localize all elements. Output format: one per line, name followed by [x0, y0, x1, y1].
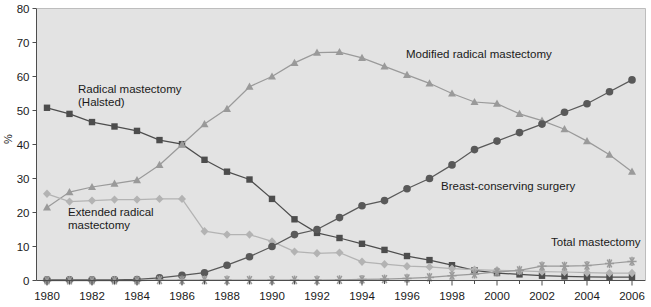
x-tick-label: 1984	[124, 290, 150, 302]
data-point-square	[44, 105, 50, 111]
y-axis-label: %	[2, 134, 14, 144]
series-annotation: mastectomy	[68, 219, 130, 231]
data-point-square	[291, 216, 297, 222]
data-point-circle	[246, 253, 254, 261]
data-point-square	[246, 176, 252, 182]
data-point-square	[111, 123, 117, 129]
data-point-square	[156, 137, 162, 143]
series-annotation: Breast-conserving surgery	[441, 180, 575, 192]
y-tick-label: 60	[17, 71, 30, 83]
x-tick-label: 1996	[394, 290, 420, 302]
series-annotation: Total mastectomy	[551, 236, 641, 248]
x-tick-label: 1994	[349, 290, 375, 302]
data-point-circle	[538, 120, 546, 128]
data-point-circle	[426, 175, 434, 183]
y-tick-label: 80	[17, 3, 30, 15]
series-annotation: (Halsted)	[78, 96, 125, 108]
data-point-circle	[201, 269, 209, 277]
x-tick-label: 1988	[214, 290, 240, 302]
data-point-circle	[516, 129, 524, 137]
data-point-square	[89, 119, 95, 125]
y-tick-label: 0	[23, 275, 29, 287]
data-point-circle	[223, 261, 231, 269]
x-tick-label: 2004	[574, 290, 600, 302]
data-point-circle	[268, 243, 276, 251]
data-point-square	[359, 241, 365, 247]
data-point-square	[224, 169, 230, 175]
y-tick-label: 70	[17, 37, 30, 49]
x-tick-label: 1990	[259, 290, 285, 302]
data-point-square	[381, 247, 387, 253]
y-tick-label: 20	[17, 207, 30, 219]
series-annotation: Modified radical mastectomy	[406, 48, 552, 60]
x-tick-label: 2000	[484, 290, 510, 302]
data-point-circle	[448, 161, 456, 169]
line-chart: 01020304050607080 1980198219841986198819…	[0, 0, 651, 307]
series-annotation: Radical mastectomy	[78, 83, 182, 95]
data-point-circle	[471, 146, 479, 154]
x-tick-label: 2006	[619, 290, 645, 302]
data-point-square	[201, 157, 207, 163]
data-point-square	[336, 235, 342, 241]
x-tick-label: 1992	[304, 290, 330, 302]
y-tick-label: 50	[17, 105, 30, 117]
data-point-circle	[583, 100, 591, 108]
series-annotation: Extended radical	[68, 206, 154, 218]
data-point-circle	[628, 76, 636, 84]
data-point-circle	[291, 231, 299, 239]
x-tick-label: 1980	[34, 290, 60, 302]
data-point-circle	[313, 226, 321, 234]
y-tick-label: 10	[17, 241, 30, 253]
y-tick-label: 40	[17, 139, 30, 151]
data-point-circle	[381, 197, 389, 205]
x-tick-label: 2002	[529, 290, 555, 302]
x-tick-label: 1998	[439, 290, 465, 302]
data-point-square	[134, 128, 140, 134]
data-point-circle	[606, 88, 614, 96]
data-point-square	[404, 253, 410, 259]
data-point-circle	[358, 202, 366, 210]
data-point-square	[66, 111, 72, 117]
x-tick-label: 1986	[169, 290, 195, 302]
x-tick-label: 1982	[79, 290, 105, 302]
y-axis-title: %	[2, 134, 14, 144]
data-point-square	[426, 257, 432, 263]
data-point-square	[269, 196, 275, 202]
y-tick-label: 30	[17, 173, 30, 185]
data-point-circle	[336, 214, 344, 222]
data-point-circle	[403, 185, 411, 193]
data-point-circle	[493, 137, 501, 145]
chart-figure: 01020304050607080 1980198219841986198819…	[0, 0, 651, 307]
data-point-circle	[561, 108, 569, 116]
